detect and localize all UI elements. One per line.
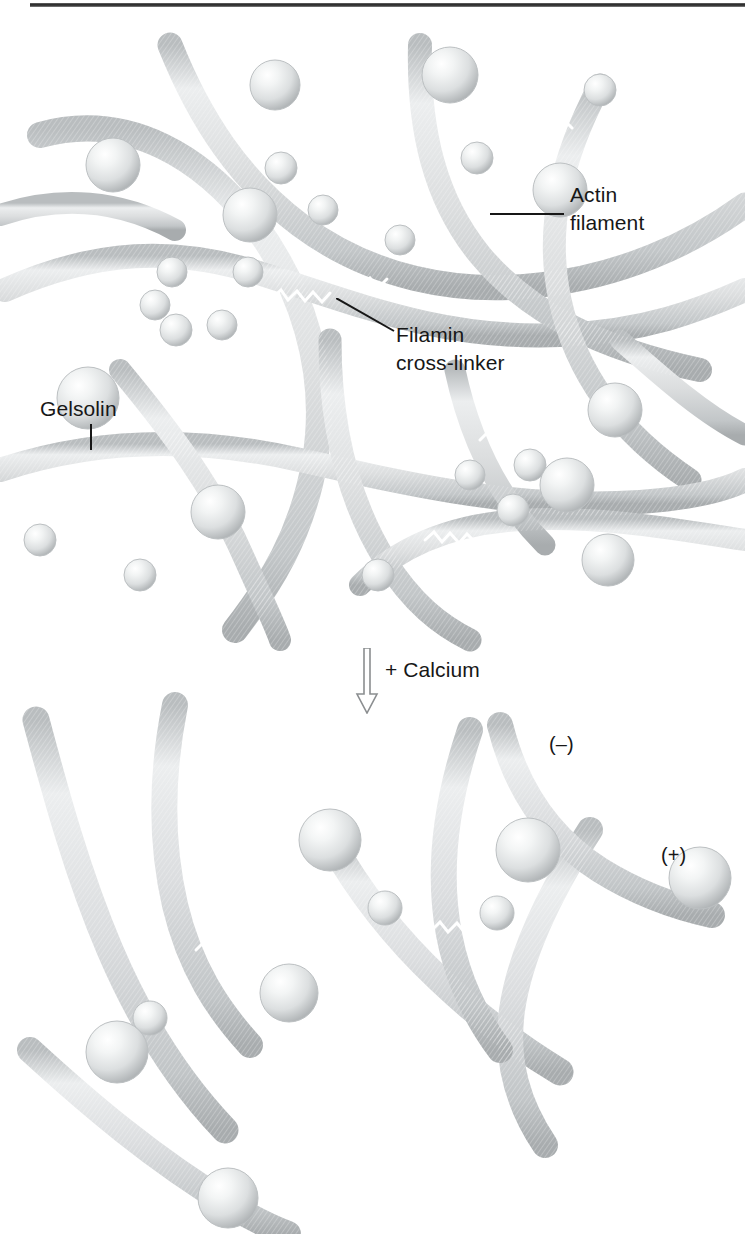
leader-line-gelsolin [90,424,92,450]
label-filamin-crosslinker: Filamin cross-linker [396,321,505,377]
label-gelsolin: Gelsolin [40,395,117,423]
leader-line-actin-filament [490,213,564,215]
severed-illustration [0,700,745,1234]
label-minus-end: (–) [549,730,574,758]
severed-filaments-panel [0,700,745,1234]
actin-network-panel: Actin filament Filamin cross-linker Gels… [0,40,745,640]
filament-texture [0,45,745,640]
label-calcium: + Calcium [385,656,480,684]
network-stage [0,40,745,640]
label-plus-end: (+) [661,841,686,869]
severed-filament-texture [30,705,712,1234]
severed-stage [0,700,745,1234]
top-rule-divider [30,3,745,7]
network-illustration [0,40,745,640]
leader-line-filamin-crosslinker [336,298,396,332]
label-actin-filament: Actin filament [570,181,644,237]
figure-root: Actin filament Filamin cross-linker Gels… [0,0,745,1234]
